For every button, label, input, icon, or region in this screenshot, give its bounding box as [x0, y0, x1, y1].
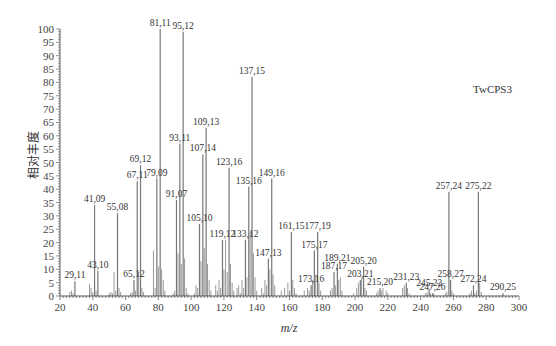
peak-label: 161,15: [278, 221, 304, 231]
y-tick-label: 45: [43, 170, 55, 182]
peak-label: 65,12: [123, 269, 145, 279]
x-tick-label: 100: [183, 301, 200, 313]
peak-label: 123,16: [216, 157, 242, 167]
y-axis-label: 相对丰度: [26, 131, 41, 179]
x-tick-label: 200: [347, 301, 364, 313]
y-tick-label: 60: [43, 130, 55, 142]
x-tick-label: 20: [55, 301, 67, 313]
mass-spectrum-chart: 29,1141,0943,1055,0865,1267,1169,1279,09…: [0, 0, 556, 346]
peak-label: 149,16: [259, 168, 285, 178]
peak-label: 257,24: [436, 181, 462, 191]
y-tick-label: 40: [43, 183, 55, 195]
peak-label: 105,10: [186, 213, 212, 223]
peak-label: 67,11: [127, 170, 148, 180]
y-tick-label: 55: [43, 143, 55, 155]
x-tick-label: 280: [478, 301, 495, 313]
y-tick-label: 90: [43, 50, 55, 62]
peak-label: 147,13: [255, 248, 281, 258]
peak-label: 29,11: [64, 270, 85, 280]
peak-label: 137,15: [239, 66, 265, 76]
peak-label: 91,07: [166, 189, 188, 199]
peak-label: 41,09: [84, 194, 106, 204]
peak-label: 109,13: [193, 117, 219, 127]
x-tick-label: 220: [380, 301, 397, 313]
y-tick-label: 25: [43, 223, 55, 235]
peak-label: 290,25: [490, 282, 516, 292]
peak-label: 69,12: [130, 154, 152, 164]
x-tick-label: 140: [248, 301, 265, 313]
y-tick-label: 35: [43, 197, 55, 209]
x-tick-label: 180: [314, 301, 331, 313]
y-tick-label: 20: [43, 237, 55, 249]
peak-label: 95,12: [172, 21, 194, 31]
x-ticks: 2040608010012014016018020022024026028030…: [55, 296, 528, 313]
y-tick-label: 15: [43, 250, 55, 262]
peak-label: 275,22: [465, 181, 491, 191]
y-tick-label: 75: [43, 90, 55, 102]
peak-label: 189,21: [324, 253, 350, 263]
peak-label: 177,19: [305, 221, 331, 231]
x-axis-label: m/z: [281, 321, 298, 335]
peak-label: 175,17: [301, 240, 327, 250]
x-tick-label: 300: [511, 301, 528, 313]
peak-label: 272,24: [460, 274, 486, 284]
x-tick-label: 240: [412, 301, 429, 313]
peak-label: 247,26: [419, 282, 445, 292]
x-tick-label: 80: [153, 301, 165, 313]
y-tick-label: 95: [43, 36, 55, 48]
y-tick-label: 50: [43, 157, 55, 169]
y-tick-label: 80: [43, 76, 55, 88]
y-tick-label: 70: [43, 103, 55, 115]
peak-label: 133,12: [232, 229, 258, 239]
y-tick-label: 30: [43, 210, 55, 222]
y-tick-label: 100: [38, 23, 55, 35]
x-tick-label: 260: [445, 301, 462, 313]
y-tick-label: 5: [49, 277, 55, 289]
x-tick-label: 60: [120, 301, 132, 313]
x-tick-label: 120: [216, 301, 233, 313]
peak-label: 81,11: [150, 18, 171, 28]
peak-label: 107,14: [190, 143, 216, 153]
y-tick-label: 0: [49, 290, 55, 302]
peak-label: 43,10: [87, 260, 109, 270]
peak-label: 79,09: [146, 168, 168, 178]
y-tick-label: 10: [43, 263, 55, 275]
peak-label: 55,08: [107, 202, 129, 212]
peak-label: 215,20: [367, 277, 393, 287]
x-tick-label: 40: [87, 301, 99, 313]
peak-label: 173,16: [298, 274, 324, 284]
peak-label: 205,20: [351, 256, 377, 266]
y-tick-label: 65: [43, 116, 55, 128]
sample-annotation: TwCPS3: [473, 83, 512, 95]
x-tick-label: 160: [281, 301, 298, 313]
peak-label: 93,11: [169, 133, 190, 143]
y-tick-label: 85: [43, 63, 55, 75]
